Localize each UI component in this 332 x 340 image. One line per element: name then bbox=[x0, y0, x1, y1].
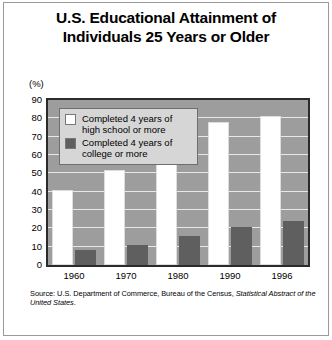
x-axis-tick-label: 1980 bbox=[156, 270, 200, 281]
legend-item: Completed 4 years ofhigh school or more bbox=[65, 113, 192, 135]
page-title: U.S. Educational Attainment of Individua… bbox=[12, 8, 320, 46]
bar-1990-high-school bbox=[208, 122, 229, 265]
y-axis-tick-label: 0 bbox=[20, 260, 42, 270]
title-line-1: U.S. Educational Attainment of bbox=[12, 8, 320, 27]
legend-label-line-2: high school or more bbox=[82, 124, 172, 135]
bar-1960-high-school bbox=[52, 190, 73, 265]
bar-1970-high-school bbox=[104, 170, 125, 265]
bar-1970-college bbox=[127, 245, 148, 265]
y-axis-tick-label: 10 bbox=[20, 242, 42, 252]
bar-1996-college bbox=[283, 221, 304, 265]
y-axis-tick-label: 30 bbox=[20, 205, 42, 215]
legend-label-line-1: Completed 4 years of bbox=[82, 137, 172, 148]
y-axis-unit-label: (%) bbox=[29, 79, 44, 89]
chart-figure: U.S. Educational Attainment of Individua… bbox=[0, 0, 332, 340]
legend-label-line-2: college or more bbox=[82, 148, 172, 159]
bar-1990-college bbox=[231, 227, 252, 266]
y-axis-tick-label: 70 bbox=[20, 132, 42, 142]
y-axis-tick-labels: 0102030405060708090 bbox=[18, 98, 42, 263]
bar-1980-college bbox=[179, 236, 200, 265]
x-axis-tick-label: 1996 bbox=[260, 270, 304, 281]
y-axis-tick-label: 80 bbox=[20, 113, 42, 123]
legend-swatch-icon bbox=[65, 138, 76, 149]
y-axis-tick-label: 50 bbox=[20, 168, 42, 178]
chart-legend: Completed 4 years ofhigh school or moreC… bbox=[59, 108, 198, 165]
source-note: Source: U.S. Department of Commerce, Bur… bbox=[30, 289, 322, 307]
y-axis-tick-label: 60 bbox=[20, 150, 42, 160]
source-prefix: Source: U.S. Department of Commerce, Bur… bbox=[30, 289, 236, 298]
y-axis-tick-label: 20 bbox=[20, 223, 42, 233]
y-axis-tick-label: 40 bbox=[20, 187, 42, 197]
legend-item: Completed 4 years ofcollege or more bbox=[65, 137, 192, 159]
bar-1960-college bbox=[75, 250, 96, 265]
gridline bbox=[48, 99, 308, 100]
x-axis-tick-label: 1960 bbox=[52, 270, 96, 281]
x-axis-tick-label: 1970 bbox=[104, 270, 148, 281]
plot-area: Completed 4 years ofhigh school or moreC… bbox=[46, 98, 310, 267]
source-suffix: . bbox=[74, 298, 76, 307]
y-axis-tick-label: 90 bbox=[20, 95, 42, 105]
legend-label: Completed 4 years ofcollege or more bbox=[82, 137, 172, 159]
title-line-2: Individuals 25 Years or Older bbox=[12, 27, 320, 46]
x-axis-tick-label: 1990 bbox=[208, 270, 252, 281]
bar-1996-high-school bbox=[260, 116, 281, 265]
legend-swatch-icon bbox=[65, 114, 76, 125]
legend-label-line-1: Completed 4 years of bbox=[82, 113, 172, 124]
legend-label: Completed 4 years ofhigh school or more bbox=[82, 113, 172, 135]
